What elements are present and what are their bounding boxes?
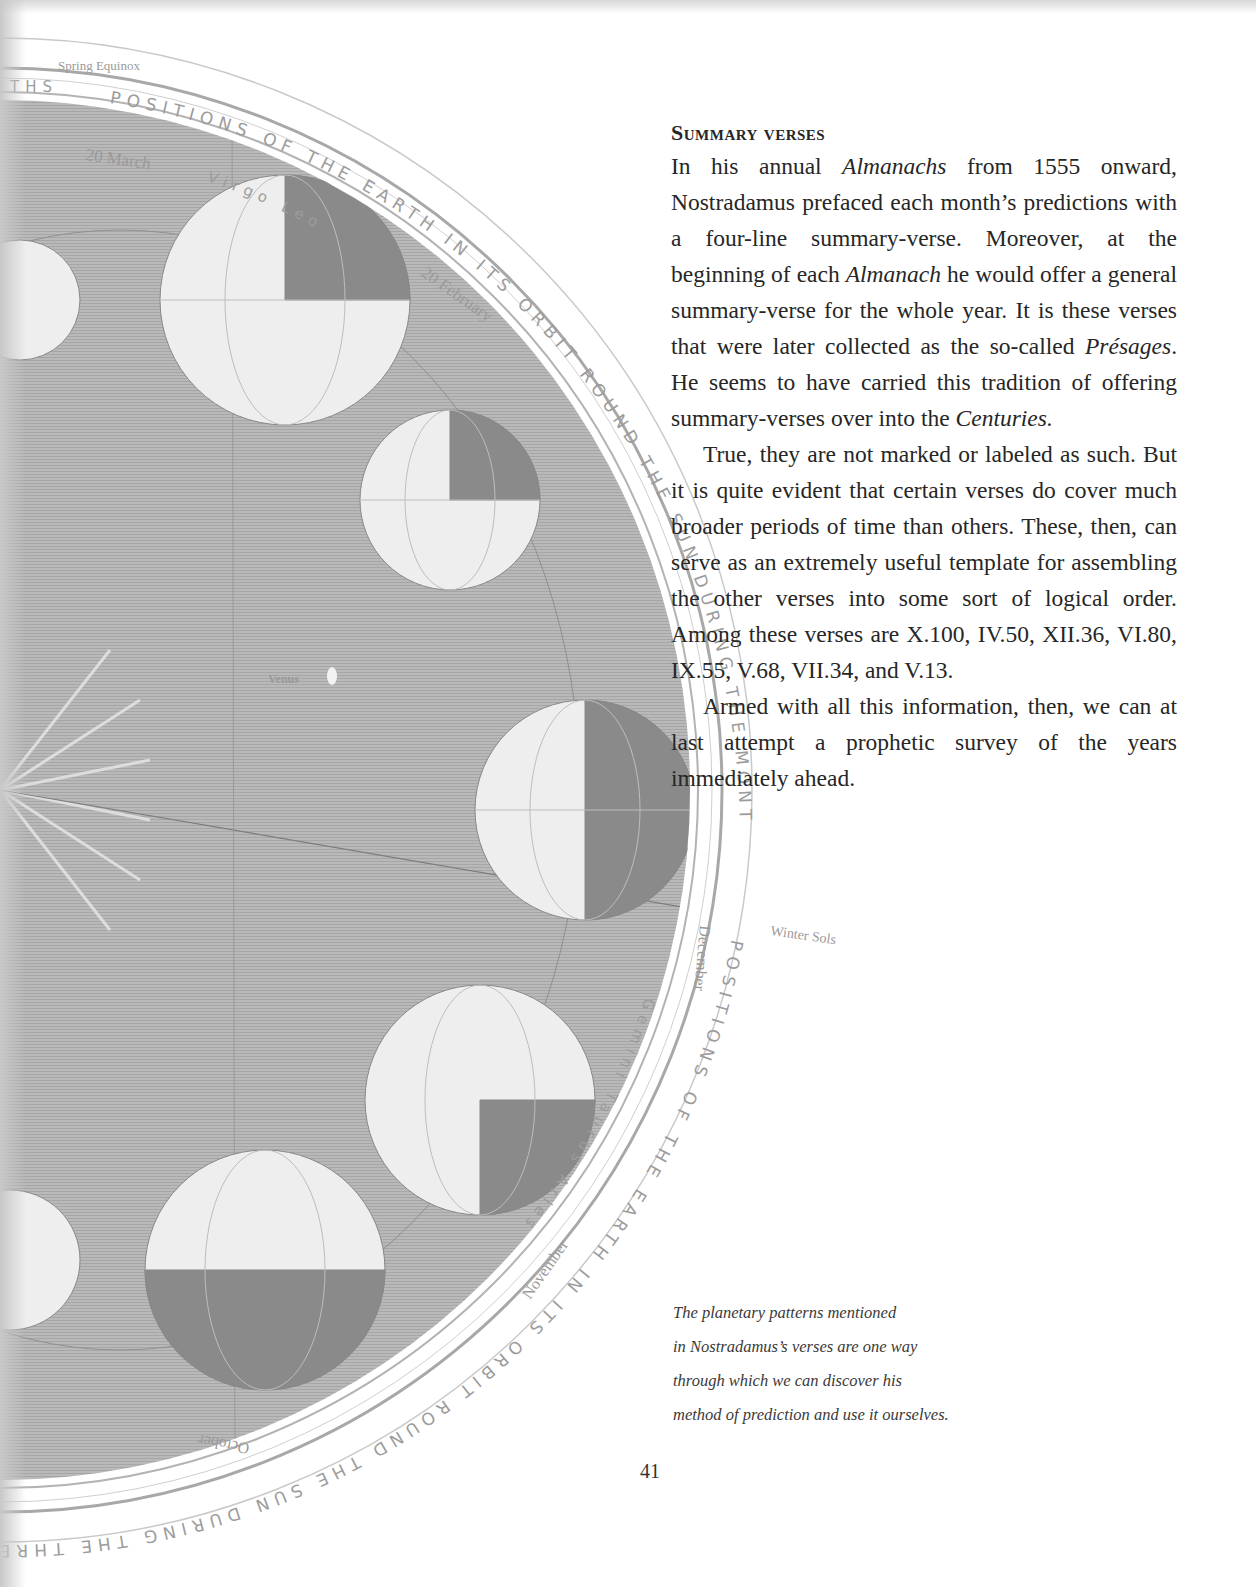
label-december: December: [691, 925, 714, 993]
caption-line: in Nostradamus’s verses are one way: [673, 1330, 1013, 1364]
text-segment: Armed with all this information, then, w…: [671, 693, 1177, 791]
caption-line: method of prediction and use it ourselve…: [673, 1398, 1013, 1432]
figure-caption: The planetary patterns mentioned in Nost…: [673, 1296, 1013, 1432]
text-segment: In his annual: [671, 153, 842, 179]
caption-line: The planetary patterns mentioned: [673, 1296, 1013, 1330]
section-heading: Summary verses: [671, 118, 1177, 148]
page-gutter-shadow: [0, 0, 26, 1587]
italic-title-presages: Présages: [1085, 333, 1171, 359]
italic-title-almanachs: Almanachs: [842, 153, 946, 179]
italic-title-almanach: Almanach: [846, 261, 941, 287]
caption-line: through which we can discover his: [673, 1364, 1013, 1398]
label-winter-solstice: Winter Sols: [770, 923, 837, 947]
label-venus: Venus: [268, 672, 299, 686]
text-segment: True, they are not marked or labeled as …: [671, 441, 1177, 683]
paragraph-2: True, they are not marked or labeled as …: [671, 436, 1177, 688]
paragraph-3: Armed with all this information, then, w…: [671, 688, 1177, 796]
paragraph-1: In his annual Almanachs from 1555 onward…: [671, 148, 1177, 436]
venus-icon: [327, 667, 337, 685]
label-spring-equinox: Spring Equinox: [58, 58, 140, 73]
article-body: Summary verses In his annual Almanachs f…: [671, 118, 1177, 796]
page-number: 41: [640, 1460, 660, 1483]
italic-title-centuries: Centuries.: [956, 405, 1053, 431]
